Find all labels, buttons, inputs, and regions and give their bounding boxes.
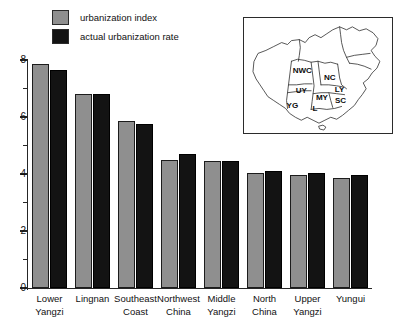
map-region-code-my: MY	[316, 93, 329, 102]
map-region-code-nc: NC	[324, 73, 336, 82]
bar-group	[114, 60, 157, 288]
bar-group	[200, 60, 243, 288]
map-region-code-uy: UY	[296, 86, 308, 95]
x-axis-category-labels: LowerYangziLingnanSoutheastCoastNorthwes…	[28, 293, 372, 327]
y-tick-label-6: 6	[20, 112, 26, 122]
map-region-code-yg: YG	[287, 101, 299, 110]
map-region-code-sc: SC	[335, 96, 346, 105]
category-label-line: Yangzi	[278, 306, 337, 319]
bar	[290, 175, 307, 288]
bar	[50, 70, 67, 288]
bar	[204, 161, 221, 288]
category-label-line: Yangzi	[20, 306, 79, 319]
category-label: Yungui	[321, 293, 380, 306]
bar	[161, 160, 178, 288]
china-map-svg: NWCNCLYUYMYSCYGL	[244, 18, 392, 133]
y-tick-label-0: 0	[20, 283, 26, 293]
bar	[179, 154, 196, 288]
map-region-code-l: L	[313, 104, 318, 113]
china-map-inset: NWCNCLYUYMYSCYGL	[243, 17, 393, 134]
bar	[333, 178, 350, 288]
bar	[308, 173, 325, 288]
bar	[118, 121, 135, 288]
bar	[222, 161, 239, 288]
category-label-line: Yungui	[321, 293, 380, 306]
bar	[75, 94, 92, 288]
bar-group	[157, 60, 200, 288]
bar	[265, 171, 282, 288]
map-region-code-nwc: NWC	[293, 66, 312, 75]
bar	[351, 175, 368, 288]
y-tick-label-8: 8	[20, 55, 26, 65]
map-region-code-ly: LY	[335, 85, 345, 94]
x-axis-line	[27, 288, 372, 289]
bar	[93, 94, 110, 288]
bar	[136, 124, 153, 288]
y-tick-label-4: 4	[20, 169, 26, 179]
bar-group	[28, 60, 71, 288]
y-tick-label-2: 2	[20, 226, 26, 236]
bar	[32, 64, 49, 288]
bar-group	[71, 60, 114, 288]
urbanization-bar-chart: urbanization index actual urbanization r…	[0, 0, 400, 328]
bar	[247, 173, 264, 288]
